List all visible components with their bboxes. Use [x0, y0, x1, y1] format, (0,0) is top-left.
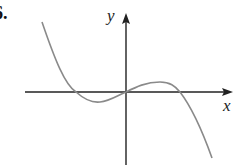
cubic-curve — [42, 22, 212, 158]
x-axis-label: x — [223, 96, 231, 116]
cubic-graph — [0, 0, 235, 165]
y-axis-label: y — [107, 6, 115, 26]
